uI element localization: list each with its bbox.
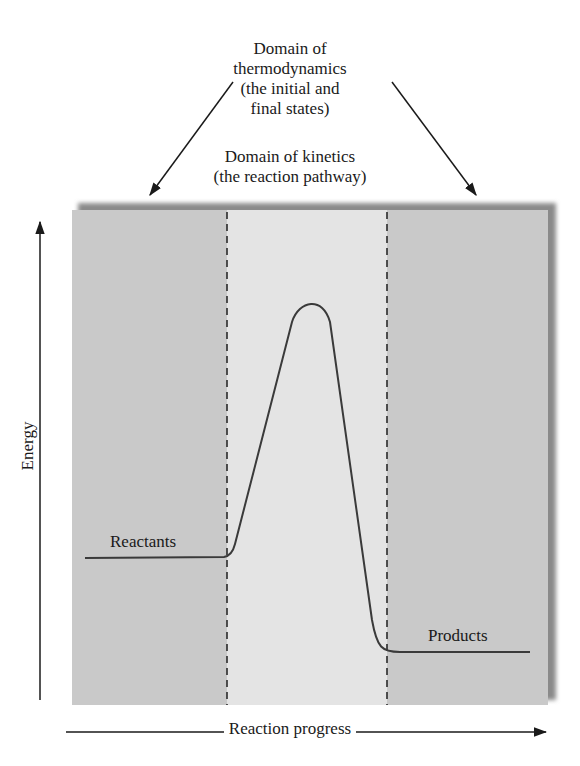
reactants-label: Reactants (110, 532, 176, 552)
x-axis-label: Reaction progress (0, 719, 580, 739)
transition-region (227, 210, 387, 705)
diagram-canvas (0, 0, 580, 766)
products-label: Products (428, 626, 488, 646)
arrow-to-products-region (392, 82, 476, 195)
arrow-to-reactants-region (150, 82, 233, 195)
reactants-region (72, 210, 227, 705)
y-axis-label: Energy (18, 417, 38, 476)
x-axis-label-text: Reaction progress (224, 719, 356, 738)
